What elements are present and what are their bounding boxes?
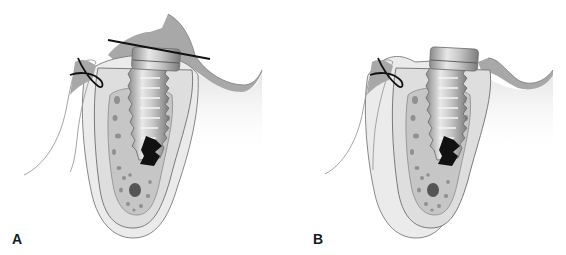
panel-a: A [0,0,283,255]
panel-label-a: A [12,231,22,247]
panel-b: B [283,0,566,255]
panel-label-b: B [313,231,323,247]
implant-illustration-b [283,0,566,255]
implant-illustration-a [0,0,283,255]
